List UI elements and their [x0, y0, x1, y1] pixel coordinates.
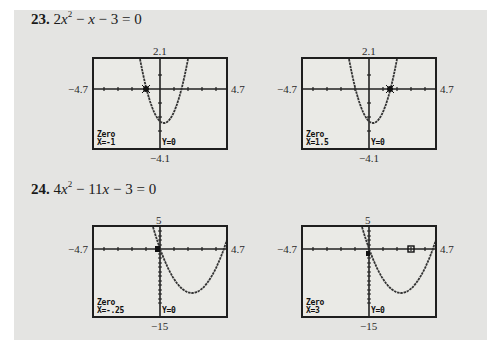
x-readout: X=-.25 — [97, 307, 124, 315]
ymin-label: −15 — [151, 320, 168, 332]
calculator-screen: Zero X=-.25 Y=0 — [92, 225, 228, 318]
ymin-label: −15 — [360, 320, 377, 332]
xmax-label: 4.7 — [231, 243, 245, 255]
xmin-label: −4.7 — [68, 243, 88, 255]
calculator-graph-23-zero-2: Zero X=1.5 Y=0 — [301, 57, 437, 150]
ymin-label: −4.1 — [150, 152, 170, 164]
y-readout: Y=0 — [162, 307, 176, 315]
calculator-screen: Zero X=3 Y=0 — [301, 225, 437, 318]
ymax-label: 2.1 — [362, 45, 376, 57]
zero-marker — [155, 246, 160, 252]
xmax-label: 4.7 — [440, 83, 454, 95]
problem-24-title: 24. 4x2 − 11x − 3 = 0 — [31, 181, 156, 198]
x-readout: X=1.5 — [306, 139, 329, 147]
x-readout: X=3 — [306, 307, 320, 315]
xmax-label: 4.7 — [231, 83, 245, 95]
y-readout: Y=0 — [371, 307, 385, 315]
y-readout: Y=0 — [162, 139, 176, 147]
xmax-label: 4.7 — [440, 243, 454, 255]
xmin-label: −4.7 — [68, 83, 88, 95]
x-readout: X=-1 — [97, 139, 115, 147]
calculator-graph-24-zero-1: Zero X=-.25 Y=0 — [92, 225, 228, 318]
ymax-label: 2.1 — [153, 45, 167, 57]
calculator-screen: Zero X=-1 Y=0 — [92, 57, 228, 150]
y-readout: Y=0 — [371, 139, 385, 147]
calculator-graph-24-zero-2: Zero X=3 Y=0 — [301, 225, 437, 318]
problem-number: 23. — [31, 11, 50, 27]
calculator-screen: Zero X=1.5 Y=0 — [301, 57, 437, 150]
calculator-graph-23-zero-1: Zero X=-1 Y=0 — [92, 57, 228, 150]
xmin-label: −4.7 — [277, 83, 297, 95]
problem-number: 24. — [31, 181, 50, 197]
problem-23-title: 23. 2x2 − x − 3 = 0 — [31, 11, 142, 28]
xmin-label: −4.7 — [277, 243, 297, 255]
ymin-label: −4.1 — [359, 152, 379, 164]
